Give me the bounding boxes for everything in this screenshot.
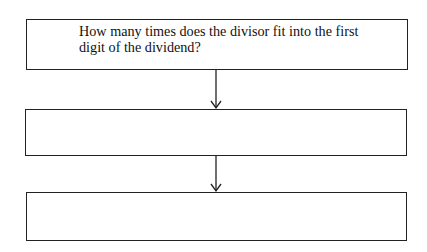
flowchart-step-2 <box>25 109 407 156</box>
arrow-down-icon <box>211 156 221 191</box>
arrow-down-icon <box>211 70 221 108</box>
flowchart-step-3 <box>26 192 407 241</box>
